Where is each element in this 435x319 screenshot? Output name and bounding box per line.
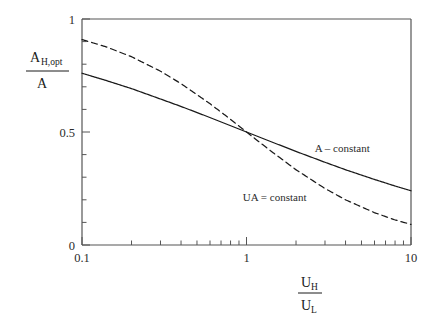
x-axis-numerator-subscript: H xyxy=(311,282,318,292)
figure-container: 0.1110 00.51 A – constantUA = constant A… xyxy=(0,0,435,319)
x-tick-label-2: 10 xyxy=(405,251,418,265)
y-axis-ticks xyxy=(82,19,90,245)
y-tick-label-2: 1 xyxy=(69,13,75,27)
x-tick-label-1: 1 xyxy=(243,251,249,265)
curve-annotations: A – constantUA = constant xyxy=(243,142,370,203)
chart-canvas: 0.1110 00.51 A – constantUA = constant A… xyxy=(0,0,435,319)
x-axis-denominator-subscript: L xyxy=(311,305,317,315)
y-axis-label: A H,opt A xyxy=(26,50,69,91)
x-axis-denominator: U xyxy=(301,298,311,313)
y-axis-denominator: A xyxy=(37,76,48,91)
curve-annotation-2: UA = constant xyxy=(243,191,307,203)
y-tick-labels: 00.51 xyxy=(59,13,75,253)
y-axis-numerator: A xyxy=(30,50,41,65)
x-axis-ticks xyxy=(82,237,411,245)
x-tick-label-0: 0.1 xyxy=(74,251,90,265)
y-tick-label-1: 0.5 xyxy=(59,126,75,140)
x-tick-labels: 0.1110 xyxy=(74,251,417,265)
x-axis-label: U H U L xyxy=(298,275,322,315)
y-tick-label-0: 0 xyxy=(69,239,75,253)
x-axis-numerator: U xyxy=(301,275,311,290)
y-axis-numerator-subscript: H,opt xyxy=(41,57,63,67)
curve-annotation-1: A – constant xyxy=(315,142,370,154)
